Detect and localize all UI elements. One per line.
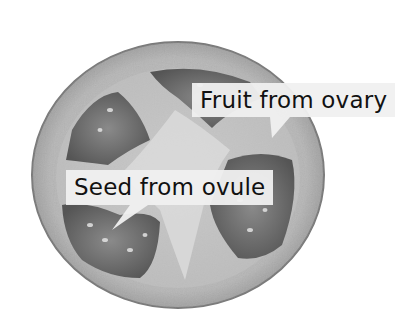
label-seed-from-ovule: Seed from ovule xyxy=(66,170,273,205)
tomato-cross-section-photo xyxy=(0,0,408,328)
label-fruit-from-ovary: Fruit from ovary xyxy=(192,83,395,117)
